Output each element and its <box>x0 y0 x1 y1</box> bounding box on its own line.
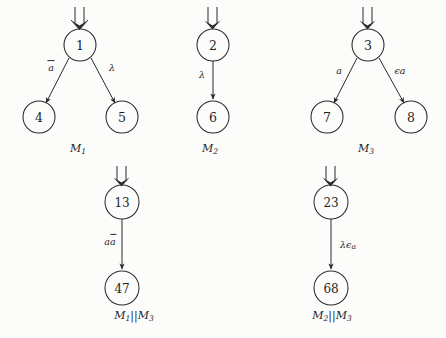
caption-M2-par-M3: M2||M3 <box>311 309 352 323</box>
state-label-5: 5 <box>118 110 126 125</box>
caption-right-subscript: 3 <box>149 313 154 322</box>
machine-M2: λ 2 6 M2 <box>197 7 229 155</box>
caption-M3: M3 <box>357 142 374 156</box>
machine-M2-par-M3: λϵa 23 68 M2||M3 <box>311 166 356 323</box>
edge-label-3-to-7: a <box>336 65 342 76</box>
caption-left-M: M <box>311 309 324 322</box>
state-label-6: 6 <box>209 110 217 125</box>
initial-double-arrow-icon-m2m3 <box>323 166 339 187</box>
edge-label-subscript-a: a <box>351 242 356 251</box>
initial-double-arrow-icon-m3 <box>360 7 376 30</box>
edge-label-a-abar-text: aa <box>104 236 116 247</box>
state-label-8: 8 <box>407 110 415 125</box>
state-label-3: 3 <box>364 38 372 53</box>
caption-M2-letter: M <box>201 142 214 155</box>
caption-right-M: M <box>137 309 150 322</box>
state-label-13: 13 <box>115 196 130 210</box>
edge-label-2-to-6: λ <box>198 69 205 80</box>
edge-label-second-a: a <box>110 236 116 247</box>
figure-root: a λ 1 4 5 M1 λ <box>0 0 446 338</box>
caption-M2-subscript: 2 <box>212 146 218 155</box>
machine-M1: a λ 1 4 5 M1 <box>23 7 138 155</box>
initial-double-arrow-icon-m2 <box>205 7 221 30</box>
initial-double-arrow-icon-m1 <box>71 7 88 30</box>
caption-M1-letter: M <box>69 142 82 155</box>
edge-label-1-to-4: a <box>47 61 54 73</box>
edge-label-1-to-5: λ <box>108 62 115 73</box>
caption-left-M: M <box>113 309 126 322</box>
state-label-68: 68 <box>324 282 339 296</box>
caption-M1-subscript: 1 <box>81 146 86 155</box>
caption-right-subscript: 3 <box>347 313 352 322</box>
state-label-4: 4 <box>35 110 43 125</box>
state-label-23: 23 <box>324 196 339 210</box>
edge-label-13-to-47: aa <box>104 234 116 246</box>
caption-M3-subscript: 3 <box>369 146 374 155</box>
edge-label-lambda: λ <box>339 239 346 250</box>
caption-right-M: M <box>335 309 348 322</box>
edge-label-23-to-68: λϵa <box>339 239 356 251</box>
initial-double-arrow-icon-m1m3 <box>114 166 130 187</box>
caption-parallel-bars: || <box>328 309 335 323</box>
state-label-7: 7 <box>323 110 331 125</box>
caption-parallel-bars: || <box>130 309 137 323</box>
edge-label-a: a <box>400 65 406 76</box>
caption-M1: M1 <box>69 142 86 156</box>
caption-M1-par-M3: M1||M3 <box>113 309 154 323</box>
state-label-47: 47 <box>115 282 130 296</box>
caption-M2: M2 <box>201 142 218 156</box>
edge-label-3-to-8: ϵa <box>395 65 406 76</box>
edge-label-abar-text: a <box>48 62 54 73</box>
caption-M3-letter: M <box>357 142 370 155</box>
machine-M1-par-M3: aa 13 47 M1||M3 <box>104 166 154 323</box>
automata-diagram-canvas: a λ 1 4 5 M1 λ <box>0 0 446 338</box>
machine-M3: a ϵa 3 7 8 M3 <box>311 7 427 155</box>
state-label-1: 1 <box>76 38 84 53</box>
state-label-2: 2 <box>209 38 217 53</box>
